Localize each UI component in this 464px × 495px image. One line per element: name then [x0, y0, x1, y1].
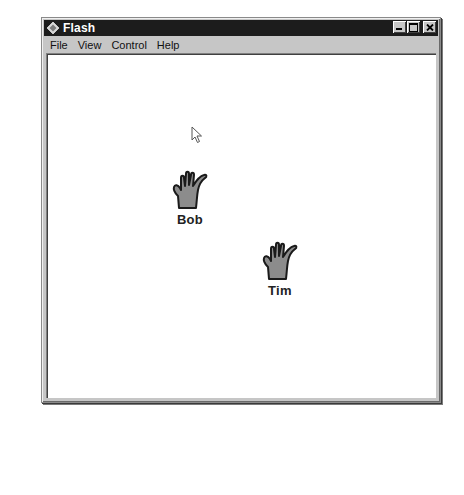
- sprite-label-bob: Bob: [177, 212, 203, 227]
- close-icon: [426, 24, 434, 31]
- window-title: Flash: [63, 21, 95, 35]
- hand-icon: [170, 166, 210, 210]
- minimize-button[interactable]: [393, 21, 406, 33]
- menu-control[interactable]: Control: [106, 39, 151, 51]
- title-bar[interactable]: Flash: [44, 20, 438, 36]
- sprite-tim[interactable]: Tim: [260, 237, 300, 298]
- flash-window: Flash File View Control Help: [41, 17, 441, 403]
- menu-view[interactable]: View: [73, 39, 107, 51]
- sprite-label-tim: Tim: [268, 283, 292, 298]
- flash-stage[interactable]: Bob Tim: [46, 53, 436, 398]
- close-button[interactable]: [423, 21, 436, 33]
- menu-file[interactable]: File: [44, 39, 73, 51]
- flash-diamond-icon: [47, 22, 59, 34]
- hand-icon: [260, 237, 300, 281]
- maximize-button[interactable]: [407, 21, 420, 33]
- minimize-icon: [396, 28, 402, 30]
- menu-help[interactable]: Help: [152, 39, 185, 51]
- window-controls: [393, 21, 436, 33]
- arrow-cursor-icon: [191, 126, 203, 144]
- sprite-bob[interactable]: Bob: [170, 166, 210, 227]
- maximize-icon: [409, 23, 418, 32]
- menu-bar: File View Control Help: [44, 37, 438, 52]
